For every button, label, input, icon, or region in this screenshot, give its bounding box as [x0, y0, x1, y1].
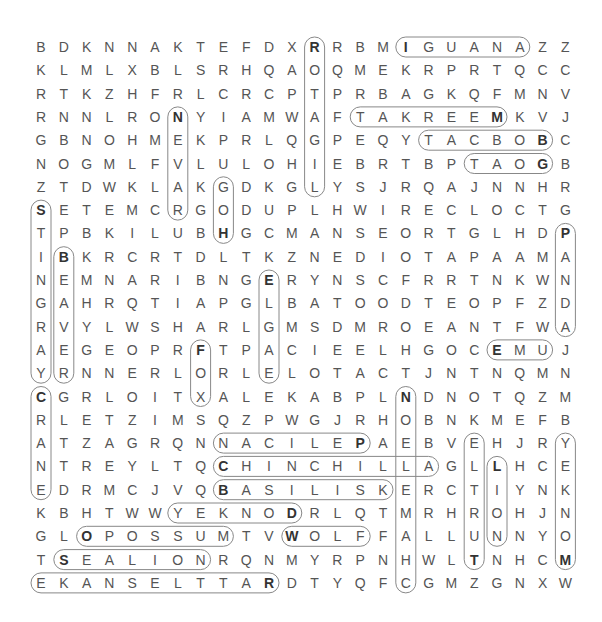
- grid-cell[interactable]: T: [76, 199, 98, 221]
- grid-cell[interactable]: A: [121, 269, 143, 291]
- grid-cell[interactable]: K: [167, 36, 189, 58]
- grid-cell[interactable]: A: [486, 246, 508, 268]
- grid-cell[interactable]: B: [53, 129, 75, 151]
- grid-cell[interactable]: T: [304, 83, 326, 105]
- grid-cell[interactable]: T: [53, 176, 75, 198]
- grid-cell[interactable]: M: [76, 269, 98, 291]
- grid-cell[interactable]: D: [190, 246, 212, 268]
- grid-cell[interactable]: W: [98, 176, 120, 198]
- grid-cell[interactable]: C: [304, 455, 326, 477]
- grid-cell[interactable]: E: [349, 339, 371, 361]
- grid-cell[interactable]: O: [349, 292, 371, 314]
- grid-cell[interactable]: I: [304, 153, 326, 175]
- grid-cell[interactable]: C: [440, 479, 462, 501]
- grid-cell[interactable]: R: [418, 59, 440, 81]
- grid-cell[interactable]: N: [486, 269, 508, 291]
- grid-cell[interactable]: A: [395, 83, 417, 105]
- grid-cell[interactable]: A: [509, 36, 531, 58]
- grid-cell[interactable]: M: [509, 83, 531, 105]
- grid-cell[interactable]: A: [30, 339, 52, 361]
- grid-cell[interactable]: N: [304, 246, 326, 268]
- grid-cell[interactable]: I: [30, 246, 52, 268]
- grid-cell[interactable]: Y: [121, 455, 143, 477]
- grid-cell[interactable]: C: [372, 269, 394, 291]
- grid-cell[interactable]: I: [372, 199, 394, 221]
- grid-cell[interactable]: R: [235, 83, 257, 105]
- grid-cell[interactable]: A: [440, 129, 462, 151]
- grid-cell[interactable]: E: [326, 339, 348, 361]
- grid-cell[interactable]: I: [212, 106, 234, 128]
- grid-cell[interactable]: N: [532, 83, 554, 105]
- grid-cell[interactable]: R: [304, 502, 326, 524]
- grid-cell[interactable]: O: [258, 502, 280, 524]
- grid-cell[interactable]: O: [463, 292, 485, 314]
- grid-cell[interactable]: R: [258, 572, 280, 594]
- grid-cell[interactable]: F: [509, 316, 531, 338]
- grid-cell[interactable]: R: [212, 316, 234, 338]
- grid-cell[interactable]: T: [167, 246, 189, 268]
- grid-cell[interactable]: H: [395, 549, 417, 571]
- grid-cell[interactable]: Y: [190, 106, 212, 128]
- grid-cell[interactable]: L: [53, 409, 75, 431]
- grid-cell[interactable]: B: [418, 409, 440, 431]
- grid-cell[interactable]: K: [190, 129, 212, 151]
- grid-cell[interactable]: G: [304, 129, 326, 151]
- grid-cell[interactable]: Q: [121, 292, 143, 314]
- grid-cell[interactable]: N: [258, 549, 280, 571]
- grid-cell[interactable]: E: [395, 479, 417, 501]
- grid-cell[interactable]: H: [235, 455, 257, 477]
- grid-cell[interactable]: H: [167, 316, 189, 338]
- grid-cell[interactable]: R: [167, 83, 189, 105]
- grid-cell[interactable]: M: [554, 549, 576, 571]
- grid-cell[interactable]: F: [532, 409, 554, 431]
- grid-cell[interactable]: E: [98, 339, 120, 361]
- grid-cell[interactable]: R: [144, 269, 166, 291]
- grid-cell[interactable]: V: [532, 106, 554, 128]
- grid-cell[interactable]: M: [395, 502, 417, 524]
- grid-cell[interactable]: M: [281, 316, 303, 338]
- grid-cell[interactable]: R: [235, 129, 257, 151]
- grid-cell[interactable]: C: [440, 199, 462, 221]
- grid-cell[interactable]: Y: [167, 502, 189, 524]
- grid-cell[interactable]: C: [554, 59, 576, 81]
- grid-cell[interactable]: A: [212, 386, 234, 408]
- grid-cell[interactable]: A: [190, 292, 212, 314]
- grid-cell[interactable]: H: [76, 292, 98, 314]
- grid-cell[interactable]: A: [98, 549, 120, 571]
- grid-cell[interactable]: L: [372, 386, 394, 408]
- grid-cell[interactable]: T: [486, 59, 508, 81]
- grid-cell[interactable]: N: [281, 455, 303, 477]
- grid-cell[interactable]: B: [144, 59, 166, 81]
- grid-cell[interactable]: S: [144, 316, 166, 338]
- grid-cell[interactable]: T: [53, 455, 75, 477]
- grid-cell[interactable]: L: [281, 362, 303, 384]
- grid-cell[interactable]: B: [190, 222, 212, 244]
- grid-cell[interactable]: E: [30, 479, 52, 501]
- grid-cell[interactable]: R: [463, 502, 485, 524]
- grid-cell[interactable]: L: [463, 455, 485, 477]
- grid-cell[interactable]: L: [463, 199, 485, 221]
- grid-cell[interactable]: F: [144, 83, 166, 105]
- grid-cell[interactable]: N: [212, 432, 234, 454]
- grid-cell[interactable]: T: [190, 36, 212, 58]
- grid-cell[interactable]: H: [509, 549, 531, 571]
- grid-cell[interactable]: Q: [463, 83, 485, 105]
- grid-cell[interactable]: T: [98, 502, 120, 524]
- grid-cell[interactable]: P: [440, 59, 462, 81]
- grid-cell[interactable]: A: [486, 153, 508, 175]
- grid-cell[interactable]: F: [372, 572, 394, 594]
- grid-cell[interactable]: C: [144, 199, 166, 221]
- grid-cell[interactable]: M: [98, 479, 120, 501]
- grid-cell[interactable]: O: [258, 153, 280, 175]
- grid-cell[interactable]: B: [418, 432, 440, 454]
- grid-cell[interactable]: F: [235, 36, 257, 58]
- grid-cell[interactable]: K: [76, 83, 98, 105]
- grid-cell[interactable]: T: [463, 153, 485, 175]
- grid-cell[interactable]: E: [509, 409, 531, 431]
- grid-cell[interactable]: N: [30, 153, 52, 175]
- grid-cell[interactable]: L: [372, 455, 394, 477]
- grid-cell[interactable]: L: [235, 362, 257, 384]
- grid-cell[interactable]: E: [463, 432, 485, 454]
- grid-cell[interactable]: C: [258, 432, 280, 454]
- grid-cell[interactable]: J: [509, 432, 531, 454]
